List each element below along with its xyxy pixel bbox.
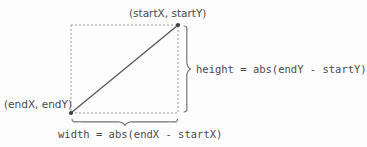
width-brace [72, 119, 178, 125]
height-brace [184, 26, 191, 112]
start-point-label: (startX, startY) [129, 8, 206, 19]
height-formula-label: height = abs(endY - startY) [196, 64, 367, 75]
end-point-label: (endX, endY) [4, 99, 72, 110]
start-point-marker [176, 23, 180, 27]
diagonal-line [72, 26, 178, 113]
width-formula-label: width = abs(endX - startX) [58, 129, 222, 140]
end-point-marker [69, 111, 73, 115]
